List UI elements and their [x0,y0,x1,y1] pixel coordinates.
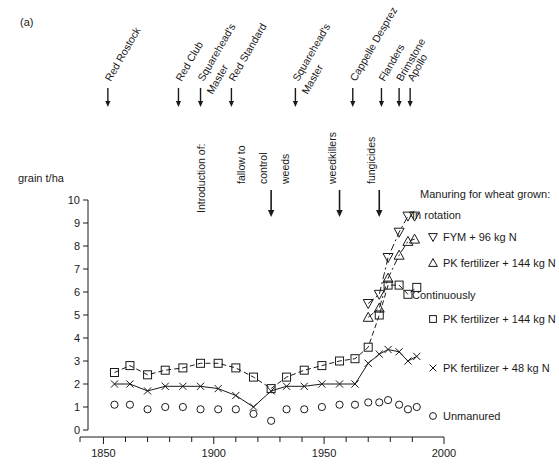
y-axis-title-text: grain t/ha [18,172,65,184]
series-4 [111,397,420,425]
legend-entry-label: Unmanured [443,410,500,422]
y-tick-label: 9 [74,217,80,229]
y-tick-label: 4 [74,332,80,344]
variety-arrow-head [379,101,384,107]
series-3 [111,346,420,411]
y-tick-label: 0 [74,424,80,436]
variety-arrow-head [105,101,110,107]
x-tick-label: 1850 [91,447,115,459]
y-tick-label: 6 [74,286,80,298]
variety-arrow-head [198,101,203,107]
introduction-of-label: Introduction of: [195,144,207,213]
y-tick-label: 10 [68,194,80,206]
intervention-label: weeds [279,154,291,185]
y-tick-label: 2 [74,378,80,390]
x-tick-label: 2000 [432,447,456,459]
variety-arrow-head [408,101,413,107]
marker-circle [162,403,169,410]
marker-circle [215,406,222,413]
chart-legend: Manuring for wheat grown:In rotationFYM … [412,188,556,422]
marker-circle [413,403,420,410]
legend-entry[interactable]: PK fertilizer + 144 kg N [429,257,556,269]
wheat-yield-chart: (a) Red RostockRed ClubSquarehead'sMaste… [0,0,559,466]
marker-circle [250,410,257,417]
panel-label-text: (a) [20,16,33,28]
legend-group-rotation: In rotation [412,209,461,221]
intervention-label: fallow to [235,145,247,184]
intervention-annotation: fungicides [365,137,382,217]
marker-circle [179,403,186,410]
marker-circle [126,401,133,408]
marker-circle [376,399,383,406]
variety-annotation: Squarehead'sMaster [290,21,333,107]
legend-entry[interactable]: Unmanured [430,410,501,422]
marker-circle [336,401,343,408]
marker-circle [404,406,411,413]
marker-circle [384,397,391,404]
legend-entry-label: PK fertilizer + 144 kg N [443,257,556,269]
legend-entry[interactable]: PK fertilizer + 144 kg N [430,313,556,325]
legend-group-continuous: Continuously [412,289,476,301]
marker-circle [318,403,325,410]
marker-circle [268,417,275,424]
x-tick-label: 1950 [312,447,336,459]
intervention-annotation: fallow tocontrolweeds [235,145,291,217]
variety-annotation: Red Rostock [102,24,143,107]
legend-entry-label: PK fertilizer + 48 kg N [443,362,550,374]
series-2 [110,281,420,393]
marker-circle [283,406,290,413]
intervention-label: fungicides [365,137,377,184]
marker-triangle-up [403,236,413,245]
variety-arrow-head [350,101,355,107]
marker-square [300,366,308,374]
marker-circle [197,406,204,413]
y-tick-label: 1 [74,401,80,413]
marker-circle [396,401,403,408]
y-axis-title: grain t/ha [18,172,65,184]
variety-arrow-head [229,101,234,107]
legend-entry-label: PK fertilizer + 144 kg N [443,313,556,325]
intervention-arrow-head [268,210,274,217]
introduction-annotations: Introduction of:fallow tocontrolweedswee… [195,132,382,217]
variety-annotations: Red RostockRed ClubSquarehead'sMasterRed… [102,5,429,107]
marker-square [430,316,437,323]
variety-arrow-head [293,101,298,107]
marker-circle [232,406,239,413]
marker-triangle-down [429,234,438,242]
variety-label: Red Rostock [102,24,143,83]
intervention-label: control [257,152,269,184]
legend-entry[interactable]: FYM + 96 kg N [429,231,517,243]
y-tick-label: 3 [74,355,80,367]
intervention-label: weedkillers [326,132,338,185]
marker-circle [301,406,308,413]
marker-circle [111,401,118,408]
y-tick-label: 7 [74,263,80,275]
marker-triangle-up [429,259,438,267]
figure-container: (a) Red RostockRed ClubSquarehead'sMaste… [0,0,559,466]
legend-entry-label: FYM + 96 kg N [443,231,517,243]
legend-entry[interactable]: PK fertilizer + 48 kg N [430,362,550,374]
marker-square [232,364,240,372]
series-line [115,350,417,408]
marker-circle [144,406,151,413]
legend-title: Manuring for wheat grown: [420,188,550,200]
intervention-arrow-head [376,210,382,217]
variety-arrow-head [397,101,402,107]
variety-arrow-head [176,101,181,107]
marker-circle [430,413,437,420]
marker-circle [351,401,358,408]
y-tick-label: 8 [74,240,80,252]
panel-label: (a) [20,16,33,28]
intervention-arrow-head [336,210,342,217]
marker-circle [365,399,372,406]
data-series [110,212,420,424]
series-1 [363,234,419,321]
intervention-annotation: weedkillers [326,132,343,217]
y-tick-label: 5 [74,309,80,321]
x-tick-label: 1900 [202,447,226,459]
marker-square [110,369,118,377]
